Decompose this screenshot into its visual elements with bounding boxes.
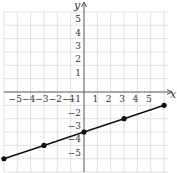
x-tick-label: −3 xyxy=(35,94,49,104)
x-tick-label: 4 xyxy=(133,94,139,104)
x-tick-label: 2 xyxy=(106,94,112,104)
y-tick-label: −2 xyxy=(68,108,81,118)
axes xyxy=(4,2,172,172)
y-axis-label: y xyxy=(73,0,81,12)
data-point xyxy=(121,116,126,121)
y-tick-label: −3 xyxy=(68,121,82,131)
x-axis-label: x xyxy=(170,88,177,101)
y-tick-label: 3 xyxy=(75,41,81,51)
y-tick-label: 1 xyxy=(75,68,81,78)
x-tick-label: 1 xyxy=(92,94,98,104)
data-point xyxy=(1,156,6,161)
data-point xyxy=(162,103,167,108)
tick-labels: −5−4−3−2−11234554321−1−2−3−4−5 xyxy=(9,14,152,158)
y-tick-label: −1 xyxy=(68,94,81,104)
graph-svg: −5−4−3−2−11234554321−1−2−3−4−5 x y xyxy=(0,0,177,173)
coordinate-plane: −5−4−3−2−11234554321−1−2−3−4−5 x y xyxy=(0,0,177,173)
y-tick-label: 4 xyxy=(75,28,81,38)
data-point xyxy=(41,143,46,148)
x-tick-label: 3 xyxy=(119,94,125,104)
x-tick-label: 5 xyxy=(146,94,152,104)
x-tick-label: −4 xyxy=(22,94,36,104)
y-tick-label: 5 xyxy=(75,14,81,24)
y-tick-label: 2 xyxy=(75,54,81,64)
y-tick-label: −5 xyxy=(68,148,82,158)
x-tick-label: −2 xyxy=(49,94,62,104)
x-tick-label: −5 xyxy=(9,94,23,104)
data-point xyxy=(81,129,86,134)
